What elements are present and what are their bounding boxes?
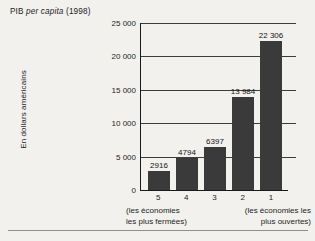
y-axis-tick-label: 20 000 [112,52,136,61]
y-axis-tick-mark [288,90,296,91]
bar-value-label: 2916 [150,161,168,170]
bar-slot: 13 984 [229,23,257,190]
x-axis-tick-label: 4 [172,193,200,202]
y-axis-tick-mark [288,23,296,24]
chart-title: PIB per capita (1998) [10,7,91,16]
y-axis-tick-label: 10 000 [112,119,136,128]
bar-series: 29164794639713 98422 306 [141,23,288,190]
bar-value-label: 6397 [206,137,224,146]
y-axis-tick-label: 15 000 [112,85,136,94]
bar-value-label: 22 306 [259,31,283,40]
bar-slot: 4794 [173,23,201,190]
x-axis-tick-label: 2 [229,193,257,202]
x-axis-tick-label: 5 [144,193,172,202]
x-axis-tick-label: 3 [200,193,228,202]
plot-area: 05 00010 00015 00020 00025 000 291647946… [140,23,288,191]
chart-title-plain: PIB [10,7,24,16]
y-axis-tick-label: 25 000 [112,19,136,28]
x-axis-tick-labels: 54321 [140,193,288,202]
bottom-divider [8,230,308,231]
bar-slot: 22 306 [257,23,285,190]
bar[interactable] [204,147,225,190]
bar-value-label: 13 984 [231,87,255,96]
chart-title-italic: per capita [26,7,63,16]
bar[interactable] [260,41,281,190]
bar[interactable] [148,171,169,190]
y-axis-tick-label: 5 000 [116,152,136,161]
bar-value-label: 4794 [178,148,196,157]
y-axis-tick-mark [288,123,296,124]
x-caption-open-economies: (les économies les plus ouvertes) [214,206,311,227]
y-axis-tick-label: 0 [132,186,136,195]
y-axis-tick-mark [288,157,296,158]
bar[interactable] [176,158,197,190]
x-axis-tick-label: 1 [257,193,285,202]
chart-title-suffix: (1998) [66,7,91,16]
x-caption-closed-economies: (les économies les plus fermées) [126,206,222,227]
bar-slot: 6397 [201,23,229,190]
chart-figure: PIB per capita (1998) En dollars américa… [0,0,315,241]
bar-slot: 2916 [145,23,173,190]
bar[interactable] [232,97,253,190]
y-axis-title: En dollars américains [19,40,28,180]
y-axis-tick-mark [288,56,296,57]
